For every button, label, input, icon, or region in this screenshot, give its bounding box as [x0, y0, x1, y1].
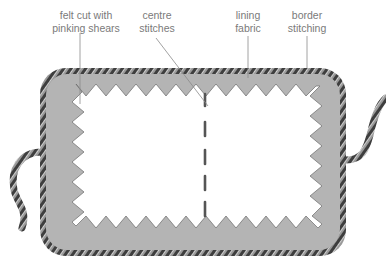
label-border-stitching: border stitching [282, 9, 332, 35]
label-centre-line1: centre [132, 9, 182, 22]
label-centre-stitches: centre stitches [132, 9, 182, 35]
label-felt-cut: felt cut with pinking shears [46, 9, 126, 35]
left-cord-icon [13, 152, 42, 228]
label-lining-fabric: lining fabric [228, 9, 268, 35]
label-felt-line2: pinking shears [46, 22, 126, 35]
label-lining-line2: fabric [228, 22, 268, 35]
label-border-line1: border [282, 9, 332, 22]
right-cord-icon [346, 98, 386, 160]
label-felt-line1: felt cut with [46, 9, 126, 22]
label-border-line2: stitching [282, 22, 332, 35]
label-lining-line1: lining [228, 9, 268, 22]
felt-mat-illustration [0, 0, 386, 269]
lining-fabric [72, 84, 322, 228]
label-centre-line2: stitches [132, 22, 182, 35]
